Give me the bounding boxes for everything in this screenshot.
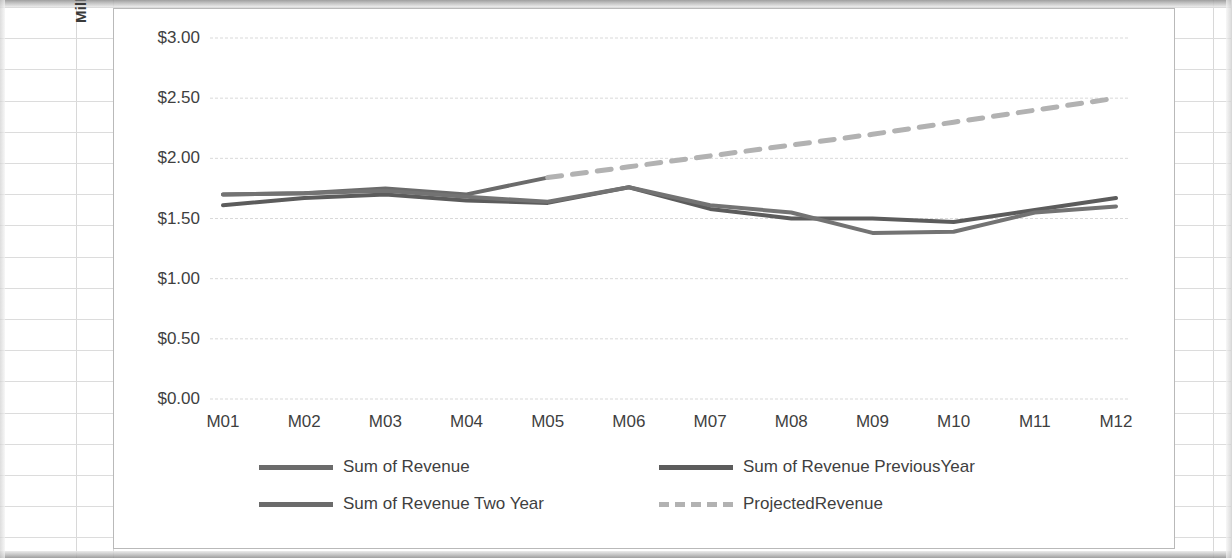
x-axis-tick-label: M02	[288, 412, 321, 432]
y-axis-title: Millions	[72, 0, 89, 23]
x-axis-tick-label: M01	[206, 412, 239, 432]
legend-item-sum-of-revenue-two-year[interactable]: Sum of Revenue Two Year	[259, 494, 659, 514]
x-axis-tick-label: M06	[612, 412, 645, 432]
scan-edge-top	[0, 0, 1231, 7]
x-axis-tick-label: M12	[1099, 412, 1132, 432]
legend-swatch-line-icon	[259, 502, 333, 507]
legend-swatch-line-icon	[259, 465, 333, 470]
x-axis-tick-label: M03	[369, 412, 402, 432]
chart-legend[interactable]: Sum of Revenue Sum of Revenue PreviousYe…	[259, 457, 1079, 531]
legend-swatch-line-icon	[659, 465, 733, 470]
chart-object[interactable]: Millions $0.00$0.50$1.00$1.50$2.00$2.50$…	[113, 8, 1175, 549]
legend-item-projected-revenue[interactable]: ProjectedRevenue	[659, 494, 1059, 514]
legend-row: Sum of Revenue Sum of Revenue PreviousYe…	[259, 457, 1079, 477]
x-axis-tick-label: M10	[937, 412, 970, 432]
legend-row: Sum of Revenue Two Year ProjectedRevenue	[259, 494, 1079, 514]
legend-item-sum-of-revenue[interactable]: Sum of Revenue	[259, 457, 659, 477]
series-line	[548, 98, 1116, 177]
legend-swatch-dashed-line-icon	[659, 502, 733, 507]
x-axis-tick-label: M05	[531, 412, 564, 432]
legend-label: Sum of Revenue Two Year	[343, 494, 544, 514]
x-axis-tick-label: M08	[775, 412, 808, 432]
scan-edge-right	[1226, 0, 1231, 558]
x-axis-tick-label: M09	[856, 412, 889, 432]
x-axis-tick-label: M04	[450, 412, 483, 432]
legend-label: ProjectedRevenue	[743, 494, 883, 514]
x-axis-tick-label: M07	[694, 412, 727, 432]
scan-edge-bottom	[0, 551, 1231, 558]
legend-item-sum-of-revenue-previous-year[interactable]: Sum of Revenue PreviousYear	[659, 457, 1059, 477]
legend-label: Sum of Revenue PreviousYear	[743, 457, 975, 477]
legend-label: Sum of Revenue	[343, 457, 470, 477]
x-axis-tick-label: M11	[1019, 412, 1051, 432]
scan-edge-left	[0, 0, 5, 558]
